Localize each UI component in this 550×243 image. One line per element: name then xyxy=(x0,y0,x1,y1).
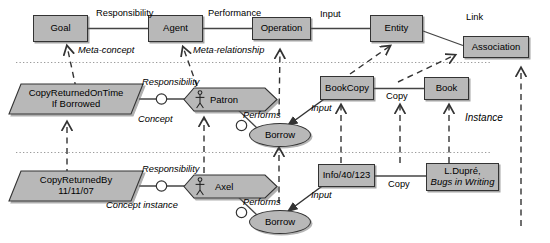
edge-copyreturnedby-axel xyxy=(139,181,189,191)
edge-label-concept-instance: Concept instance xyxy=(106,200,178,210)
node-entity[interactable]: Entity xyxy=(370,15,423,42)
edge-label-responsibility-concept: Responsibility xyxy=(142,77,199,87)
edge-label-input-meta: Input xyxy=(320,9,341,19)
edge-label-performs-instance: Performs xyxy=(243,197,281,207)
edge-label-instance: Instance xyxy=(465,112,503,123)
edge-label-input-instance: Input xyxy=(311,190,332,200)
node-copy-returned-on-time[interactable] xyxy=(9,84,143,114)
edge-copyreturnedontime-patron xyxy=(139,94,189,104)
diagram-canvas: Goal Agent Operation Entity Association … xyxy=(0,0,550,243)
node-operation[interactable]: Operation xyxy=(252,17,311,40)
node-borrow-concept[interactable]: Borrow xyxy=(249,123,311,147)
node-agent[interactable]: Agent xyxy=(148,15,203,42)
edge-label-meta-relationship: Meta-relationship xyxy=(193,45,264,55)
arrow-copyreturnedontime-to-goal xyxy=(67,46,76,88)
node-borrow-instance[interactable]: Borrow xyxy=(249,210,311,234)
edge-label-copy-instance: Copy xyxy=(388,179,410,189)
arrow-borrow-to-operation xyxy=(279,50,280,115)
node-borrow-instance-label: Borrow xyxy=(263,217,297,228)
node-entity-label: Entity xyxy=(383,23,411,34)
edge-label-meta-concept: Meta-concept xyxy=(78,45,134,55)
node-association-label: Association xyxy=(470,42,523,53)
node-ldupre-line1: L.Dupré, xyxy=(444,165,480,176)
node-borrow-concept-label: Borrow xyxy=(263,130,297,141)
node-ldupre-line2: Bugs in Writing xyxy=(431,177,495,188)
node-operation-label: Operation xyxy=(259,23,305,34)
node-goal[interactable]: Goal xyxy=(33,15,88,42)
node-agent-label: Agent xyxy=(161,23,190,34)
node-book[interactable]: Book xyxy=(424,77,469,100)
node-bookcopy[interactable]: BookCopy xyxy=(320,76,374,100)
edge-label-performance: Performance xyxy=(208,8,261,18)
node-info-40-123[interactable]: Info/40/123 xyxy=(318,164,375,187)
arrow-bookcopy-to-entity xyxy=(350,46,390,74)
node-info-40-123-label: Info/40/123 xyxy=(321,170,373,181)
edge-label-responsibility-instance: Responsibility xyxy=(142,164,199,174)
node-book-label: Book xyxy=(434,83,460,94)
node-copy-returned-by[interactable] xyxy=(9,171,143,201)
node-bookcopy-label: BookCopy xyxy=(323,83,371,94)
node-association[interactable]: Association xyxy=(463,36,529,58)
node-goal-label: Goal xyxy=(48,23,72,34)
node-ldupre-bugs-in-writing[interactable]: L.Dupré, Bugs in Writing xyxy=(426,163,499,191)
edge-label-performs-concept: Performs xyxy=(243,110,281,120)
edge-label-concept: Concept xyxy=(138,114,173,124)
edge-label-link: Link xyxy=(466,12,483,22)
edge-label-copy-concept: Copy xyxy=(386,91,408,101)
edge-label-responsibility-meta: Responsibility xyxy=(96,8,153,18)
edge-entity-association xyxy=(423,31,463,46)
edge-label-input-concept: Input xyxy=(311,103,332,113)
